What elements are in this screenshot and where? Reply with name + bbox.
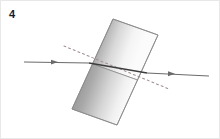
- ray-diagram-canvas: [1, 1, 220, 139]
- optics-ray-diagram-figure: 4: [0, 0, 220, 139]
- emergent-ray-line: [147, 73, 209, 76]
- emergent-ray-arrowhead: [168, 71, 175, 76]
- incident-ray-arrowhead: [51, 60, 58, 65]
